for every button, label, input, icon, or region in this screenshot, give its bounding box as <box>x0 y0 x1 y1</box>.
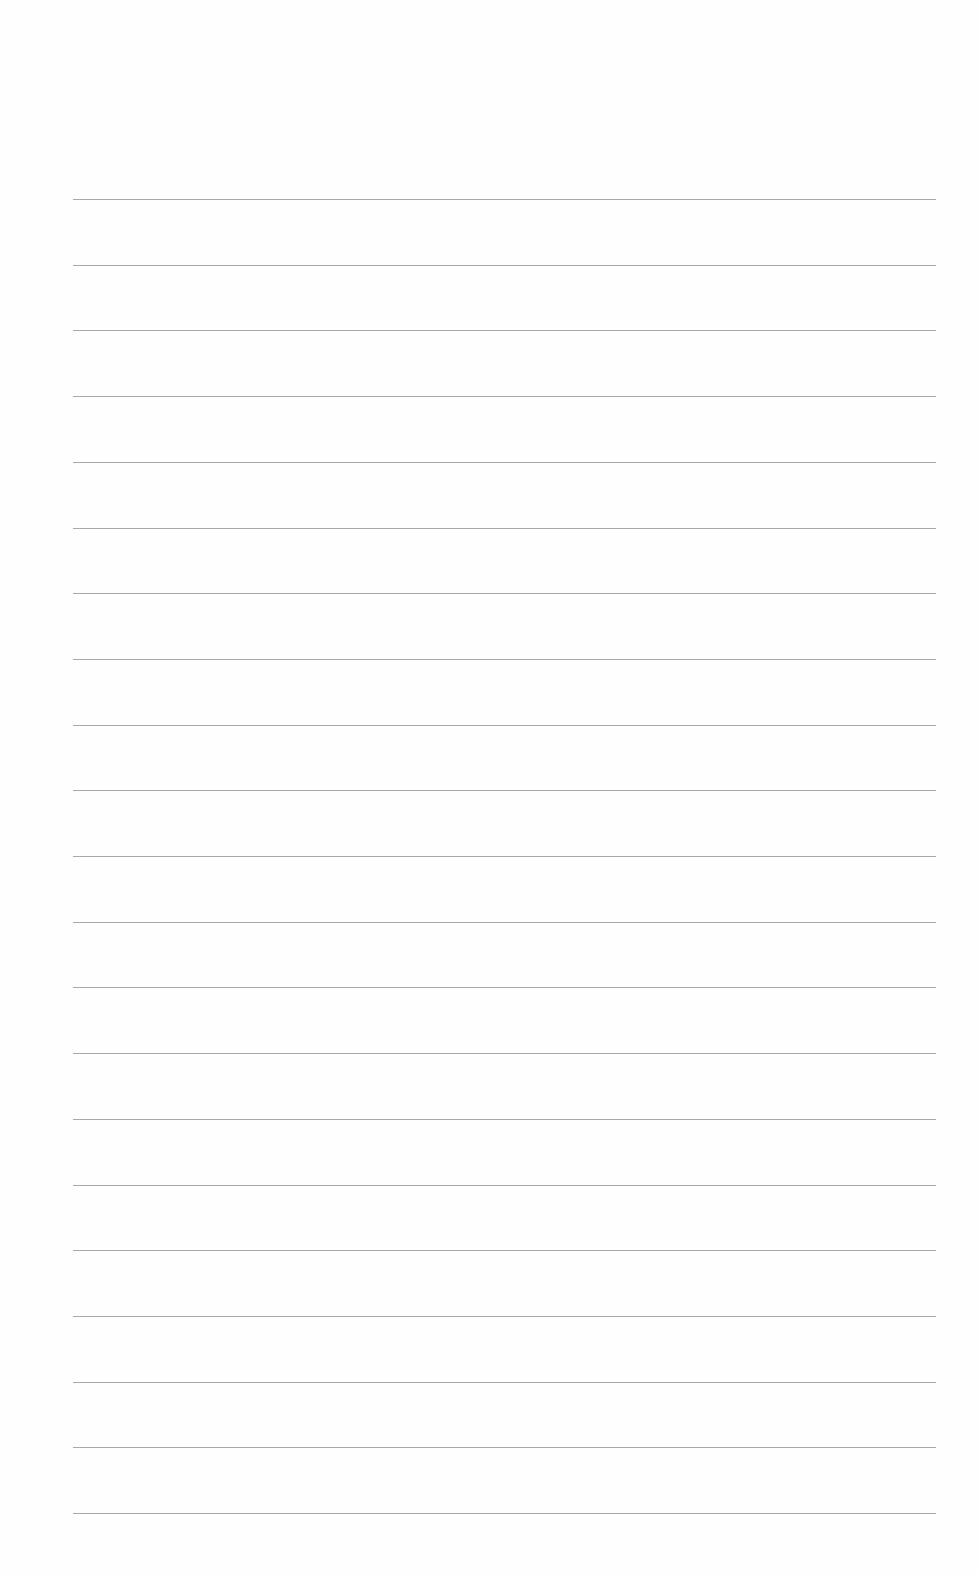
ruled-line <box>73 1316 936 1317</box>
ruled-line <box>73 1382 936 1383</box>
ruled-line <box>73 199 936 200</box>
ruled-line <box>73 593 936 594</box>
ruled-line <box>73 462 936 463</box>
ruled-line <box>73 1053 936 1054</box>
ruled-line <box>73 856 936 857</box>
ruled-line <box>73 987 936 988</box>
ruled-line <box>73 528 936 529</box>
ruled-line <box>73 725 936 726</box>
ruled-line <box>73 1185 936 1186</box>
ruled-line <box>73 659 936 660</box>
ruled-line <box>73 396 936 397</box>
ruled-line <box>73 922 936 923</box>
ruled-line <box>73 330 936 331</box>
ruled-line <box>73 790 936 791</box>
ruled-line <box>73 1250 936 1251</box>
ruled-line <box>73 1513 936 1514</box>
lined-paper-page <box>0 0 979 1574</box>
ruled-line <box>73 1119 936 1120</box>
ruled-line <box>73 265 936 266</box>
blank-header-area <box>73 20 936 180</box>
ruled-line <box>73 1447 936 1448</box>
